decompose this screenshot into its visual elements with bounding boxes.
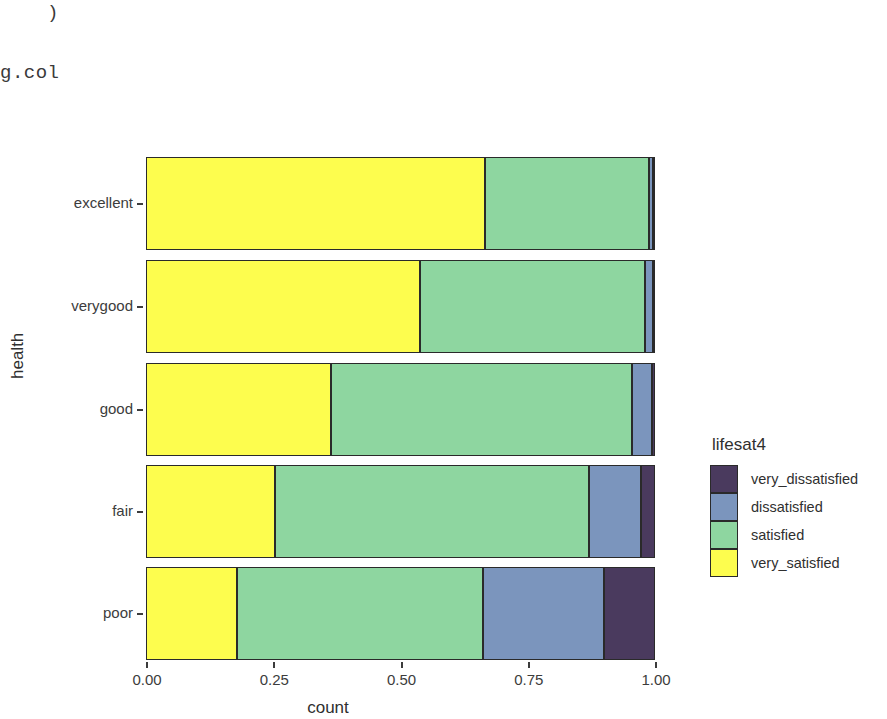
bar-segment <box>146 363 331 456</box>
bar-segment <box>653 260 655 353</box>
bar-segment <box>653 157 655 250</box>
legend-swatch <box>710 521 738 549</box>
console-line-gcol: g.col <box>0 62 60 84</box>
x-axis-tick-mark <box>655 662 657 668</box>
legend-entry: dissatisfied <box>710 493 885 521</box>
bar-segment <box>645 260 654 353</box>
legend-entry: very_dissatisfied <box>710 465 885 493</box>
legend-swatch <box>710 465 738 493</box>
bar-row <box>147 157 656 250</box>
legend-entry-label: dissatisfied <box>751 499 823 515</box>
bar-segment <box>485 157 649 250</box>
bar-segment <box>652 363 655 456</box>
legend-entry-label: satisfied <box>751 527 804 543</box>
bar-row <box>147 260 656 353</box>
x-axis-tick-mark <box>528 662 530 668</box>
bar-segment <box>632 363 652 456</box>
bar-segment <box>604 567 655 660</box>
bar-segment <box>275 465 588 558</box>
bar-segment <box>331 363 632 456</box>
bar-segment <box>420 260 645 353</box>
bar-segment <box>589 465 642 558</box>
legend-swatch <box>710 549 738 577</box>
console-line-paren: ) <box>47 2 59 24</box>
x-axis-tick-label: 0.50 <box>387 671 416 688</box>
bar-segment <box>483 567 604 660</box>
bar-segment <box>641 465 655 558</box>
bar-row <box>147 465 656 558</box>
legend-entries: very_dissatisfieddissatisfiedsatisfiedve… <box>710 465 885 577</box>
legend-swatch <box>710 493 738 521</box>
bar-segment <box>146 157 484 250</box>
bar-segment <box>237 567 483 660</box>
x-axis-tick-label: 1.00 <box>641 671 670 688</box>
bar-row <box>147 567 656 660</box>
x-axis-tick-label: 0.00 <box>132 671 161 688</box>
bar-segment <box>146 567 237 660</box>
bar-segment <box>146 465 275 558</box>
legend-entry-label: very_dissatisfied <box>751 471 858 487</box>
legend-entry: satisfied <box>710 521 885 549</box>
legend-entry: very_satisfied <box>710 549 885 577</box>
stacked-bar-chart: health excellentverygoodgoodfairpoor 0.0… <box>0 110 887 719</box>
legend-entry-label: very_satisfied <box>751 555 840 571</box>
legend: lifesat4 very_dissatisfieddissatisfiedsa… <box>710 435 885 577</box>
x-axis-tick-mark <box>273 662 275 668</box>
x-axis-tick-mark <box>146 662 148 668</box>
x-axis-tick-mark <box>401 662 403 668</box>
x-axis-title: count <box>0 698 656 718</box>
bars-layer <box>0 110 887 719</box>
bar-segment <box>146 260 419 353</box>
x-axis-tick-label: 0.25 <box>260 671 289 688</box>
x-axis-tick-label: 0.75 <box>514 671 543 688</box>
bar-row <box>147 363 656 456</box>
legend-title: lifesat4 <box>710 435 885 455</box>
